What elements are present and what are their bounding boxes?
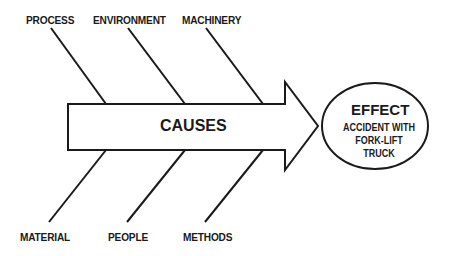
spine-label: CAUSES bbox=[160, 117, 227, 135]
bone-people bbox=[127, 150, 185, 222]
bone-methods bbox=[205, 150, 263, 222]
effect-title: EFFECT bbox=[351, 101, 409, 118]
cause-label-people: PEOPLE bbox=[108, 231, 148, 243]
cause-label-process: PROCESS bbox=[26, 14, 74, 26]
cause-label-environment: ENVIRONMENT bbox=[93, 14, 166, 26]
cause-label-material: MATERIAL bbox=[20, 231, 70, 243]
bone-process bbox=[51, 28, 106, 104]
bone-material bbox=[49, 150, 106, 222]
cause-label-methods: METHODS bbox=[183, 231, 232, 243]
bone-environment bbox=[128, 28, 185, 104]
cause-label-machinery: MACHINERY bbox=[182, 14, 241, 26]
effect-description: ACCIDENT WITH FORK-LIFT TRUCK bbox=[341, 121, 417, 160]
bone-machinery bbox=[206, 28, 263, 104]
